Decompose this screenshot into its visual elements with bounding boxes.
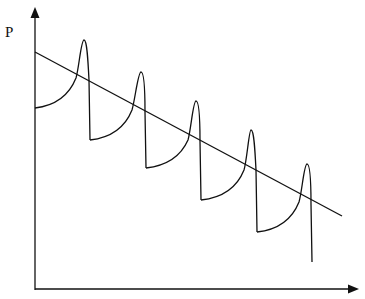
sawtooth-curve <box>35 40 312 262</box>
trend-line <box>35 52 342 216</box>
pressure-diagram: P <box>0 0 365 299</box>
y-axis-label: P <box>5 24 13 40</box>
y-axis-arrow-icon <box>31 7 40 18</box>
cycle-1 <box>35 40 90 140</box>
x-axis-arrow-icon <box>348 285 359 294</box>
cycle-5 <box>257 164 312 262</box>
